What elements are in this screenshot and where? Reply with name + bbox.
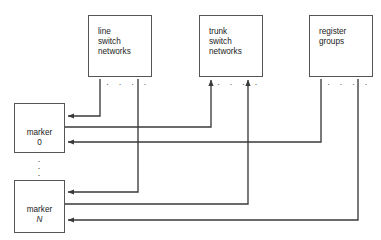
- marker-index: N: [15, 215, 64, 225]
- node-marker-n[interactable]: marker N: [14, 180, 65, 233]
- node-trunk-switch-networks[interactable]: trunk switch networks: [199, 15, 263, 77]
- trunk-switch-ellipsis-icon: · · · ·: [217, 79, 261, 89]
- node-label: line switch networks: [98, 27, 131, 58]
- node-marker-0[interactable]: marker 0: [14, 103, 65, 153]
- register-groups-ellipsis-icon: · · · ·: [327, 79, 371, 89]
- marker-vertical-ellipsis-icon: · · ·: [34, 158, 44, 179]
- node-label: register groups: [319, 27, 346, 47]
- line-switch-ellipsis-icon: · · · ·: [106, 79, 150, 89]
- marker-index: 0: [15, 138, 64, 148]
- wire-register-groups-to-marker-n: [68, 79, 358, 220]
- node-label: marker N: [15, 195, 64, 236]
- wire-line-switch-to-marker-n: [68, 79, 138, 192]
- marker-name: marker: [27, 205, 52, 214]
- node-label: trunk switch networks: [209, 27, 242, 58]
- wire-line-switch-to-marker-0: [68, 79, 100, 116]
- node-line-switch-networks[interactable]: line switch networks: [88, 15, 152, 77]
- marker-name: marker: [27, 128, 52, 137]
- node-register-groups[interactable]: register groups: [309, 15, 373, 77]
- diagram-canvas: line switch networks trunk switch networ…: [0, 0, 381, 240]
- node-label: marker 0: [15, 118, 64, 159]
